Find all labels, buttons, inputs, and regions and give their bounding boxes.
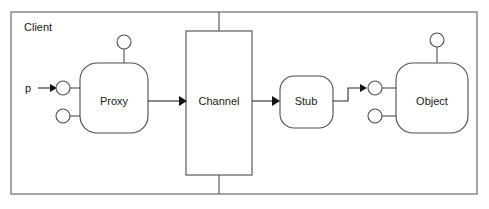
stub-to-object-connector <box>333 88 360 101</box>
node-channel-label: Channel <box>199 95 240 107</box>
proxy-top-port[interactable] <box>117 35 131 49</box>
client-proxy-channel-stub-object-diagram: Client Proxy Channel Stub Object p <box>0 0 489 209</box>
channel-to-stub-arrowhead <box>272 96 280 106</box>
node-stub-label: Stub <box>295 95 318 107</box>
stub-to-object-arrowhead <box>360 84 367 92</box>
node-object-label: Object <box>416 95 448 107</box>
parameter-label: p <box>25 82 31 94</box>
client-label: Client <box>24 21 52 33</box>
object-left-upper-port[interactable] <box>368 81 382 95</box>
proxy-left-lower-port[interactable] <box>56 109 70 123</box>
object-top-port[interactable] <box>430 33 444 47</box>
proxy-left-upper-port[interactable] <box>56 81 70 95</box>
node-proxy-label: Proxy <box>100 95 129 107</box>
object-left-lower-port[interactable] <box>368 109 382 123</box>
diagram-canvas: Client Proxy Channel Stub Object p <box>0 0 489 209</box>
